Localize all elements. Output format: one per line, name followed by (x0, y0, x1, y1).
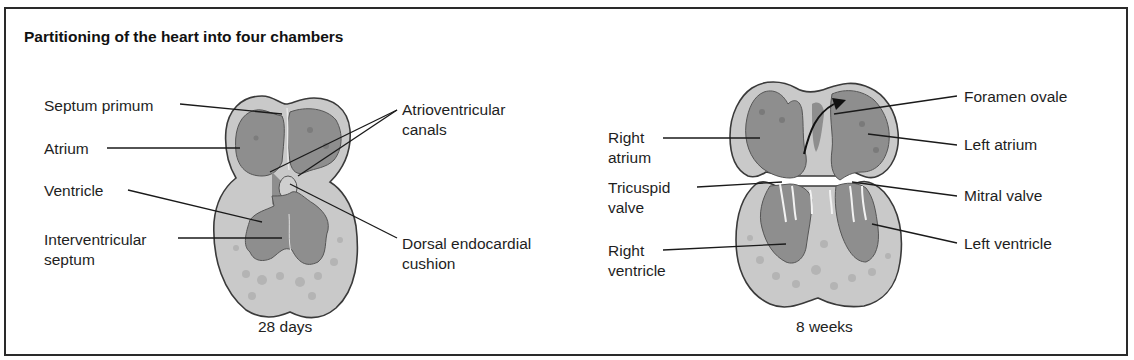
heart-illustrations (0, 0, 1134, 360)
caption-8-weeks: 8 weeks (796, 318, 853, 336)
caption-28-days: 28 days (258, 318, 312, 336)
label-mitral-valve: Mitral valve (964, 186, 1042, 206)
label-dorsal-endocardial-cushion: Dorsal endocardial cushion (402, 234, 531, 274)
label-left-atrium: Left atrium (964, 135, 1037, 155)
label-septum-primum: Septum primum (44, 96, 153, 116)
heart-8-weeks (730, 82, 901, 307)
label-ventricle: Ventricle (44, 181, 103, 201)
label-left-ventricle: Left ventricle (964, 234, 1052, 254)
label-tricuspid-valve: Tricuspid valve (608, 178, 670, 218)
label-interventricular-septum: Interventricular septum (44, 230, 147, 270)
label-atrioventricular-canals: Atrioventricular canals (402, 100, 505, 140)
label-right-atrium: Right atrium (608, 128, 651, 168)
label-right-ventricle: Right ventricle (608, 241, 666, 281)
label-atrium: Atrium (44, 139, 89, 159)
heart-28-left-atrium (236, 110, 285, 176)
label-foramen-ovale: Foramen ovale (964, 87, 1067, 107)
